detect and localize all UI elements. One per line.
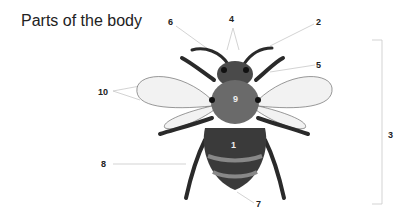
label-9: 9	[233, 94, 238, 104]
label-2: 2	[316, 17, 321, 27]
label-10: 10	[98, 87, 108, 97]
bee-illustration	[0, 0, 418, 208]
label-1: 1	[231, 140, 236, 150]
label-8: 8	[101, 159, 106, 169]
label-3: 3	[388, 130, 393, 140]
label-6: 6	[168, 17, 173, 27]
label-5: 5	[316, 60, 321, 70]
label-4: 4	[229, 14, 234, 24]
label-7: 7	[256, 199, 261, 208]
